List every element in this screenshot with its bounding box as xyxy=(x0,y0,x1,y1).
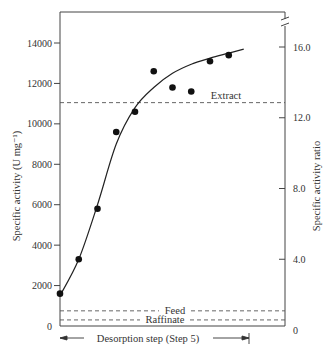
data-point xyxy=(225,52,232,59)
right-tick-label: 0 xyxy=(293,325,298,336)
data-point xyxy=(207,58,214,65)
right-tick-label: 4.0 xyxy=(293,254,306,265)
right-axis-title: Specific activity ratio xyxy=(311,141,322,231)
left-tick-label: 2000 xyxy=(32,280,52,291)
axis-break-mark xyxy=(281,23,289,26)
right-tick-label: 16.0 xyxy=(293,42,311,53)
reference-line-label: Raffinate xyxy=(146,314,185,325)
right-axis-ticks: 04.08.012.016.0 xyxy=(279,42,311,336)
data-point xyxy=(113,129,120,136)
data-points xyxy=(57,52,232,297)
right-tick-label: 12.0 xyxy=(293,112,311,123)
data-point xyxy=(169,84,176,91)
left-tick-label: 10000 xyxy=(27,118,52,129)
right-tick-label: 8.0 xyxy=(293,183,306,194)
plot-frame xyxy=(60,12,289,326)
reference-line-label: Extract xyxy=(211,90,241,101)
chart: 02000400060008000100001200014000 04.08.0… xyxy=(0,0,334,357)
data-point xyxy=(75,256,82,263)
left-tick-label: 14000 xyxy=(27,38,52,49)
data-point xyxy=(150,68,157,75)
x-axis-title: Desorption step (Step 5) xyxy=(97,333,200,345)
data-point xyxy=(188,88,195,95)
left-tick-label: 12000 xyxy=(27,78,52,89)
reference-line-raffinate: Raffinate xyxy=(60,314,285,325)
reference-line-extract: Extract xyxy=(60,90,285,103)
reference-lines: ExtractFeedRaffinate xyxy=(60,90,285,326)
left-tick-label: 0 xyxy=(47,321,52,332)
left-axis-ticks: 02000400060008000100001200014000 xyxy=(27,38,60,332)
left-axis-title: Specific activity (U mg⁻¹) xyxy=(11,130,23,241)
left-tick-label: 6000 xyxy=(32,199,52,210)
arrow-left-icon xyxy=(60,336,67,340)
fitted-curve xyxy=(60,49,244,296)
left-tick-label: 8000 xyxy=(32,159,52,170)
data-point xyxy=(57,290,64,297)
data-point xyxy=(132,108,139,115)
data-point xyxy=(94,205,101,212)
clipped-caption xyxy=(0,350,334,357)
arrow-right-icon xyxy=(242,336,249,340)
left-tick-label: 4000 xyxy=(32,240,52,251)
